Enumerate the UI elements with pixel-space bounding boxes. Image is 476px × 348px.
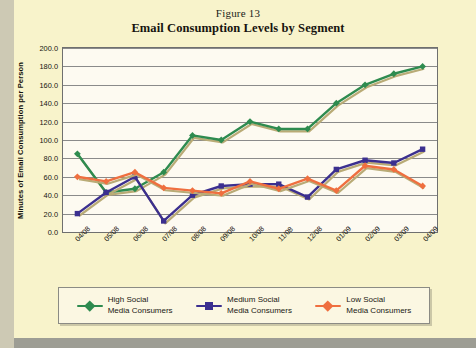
legend-label: Medium SocialMedia Consumers: [227, 295, 292, 316]
data-point-marker: [219, 183, 224, 188]
data-point-marker: [161, 218, 166, 223]
data-point-marker: [391, 160, 396, 165]
y-axis-tick-label: 60.0: [44, 172, 58, 181]
y-axis-tick-label: 140.0: [40, 99, 59, 108]
y-axis-tick-label: 100.0: [40, 136, 59, 145]
data-point-marker: [103, 190, 108, 195]
y-axis-tick-label: 160.0: [40, 80, 59, 89]
series-line-shadow: [79, 152, 424, 224]
data-point-marker: [75, 211, 80, 216]
legend-swatch-icon: [315, 301, 341, 311]
legend-label-line1: Medium Social: [227, 295, 292, 306]
y-axis-title-text: Minutes of Email Consumption per Person: [17, 61, 26, 218]
y-axis-tick-label: 0.0: [48, 228, 58, 237]
y-axis-tick-label: 20.0: [44, 209, 58, 218]
chart-title: Email Consumption Levels by Segment: [0, 21, 476, 36]
page-edge-bottom: [14, 338, 476, 348]
y-axis-tick-label: 200.0: [40, 44, 59, 53]
chart-series-canvas: [63, 48, 437, 232]
x-axis-ticks: 04/0805/0806/0807/0808/0809/0810/0811/08…: [62, 237, 438, 281]
legend-label-line1: Low Social: [346, 295, 411, 306]
data-point-marker: [334, 167, 339, 172]
chart-title-block: Figure 13 Email Consumption Levels by Se…: [0, 7, 476, 36]
data-point-marker: [420, 147, 425, 152]
page-background: Figure 13 Email Consumption Levels by Se…: [0, 0, 476, 348]
chart-area: Minutes of Email Consumption per Person …: [18, 47, 438, 242]
data-point-marker: [305, 194, 310, 199]
y-axis-tick-label: 40.0: [44, 191, 58, 200]
legend-swatch-icon: [196, 301, 222, 311]
legend-item-2[interactable]: Low SocialMedia Consumers: [315, 295, 411, 316]
legend-item-1[interactable]: Medium SocialMedia Consumers: [196, 295, 292, 316]
data-point-marker: [362, 158, 367, 163]
legend-item-0[interactable]: High SocialMedia Consumers: [77, 295, 173, 316]
figure-label: Figure 13: [0, 7, 476, 19]
y-axis-tick-label: 120.0: [40, 117, 59, 126]
legend-label-line1: High Social: [108, 295, 173, 306]
legend-label-line2: Media Consumers: [108, 306, 173, 317]
page-edge-left: [0, 0, 14, 348]
y-axis-tick-label: 180.0: [40, 62, 59, 71]
y-axis-ticks: 200.0180.0160.0140.0120.0100.080.060.040…: [30, 47, 60, 233]
chart-legend: High SocialMedia ConsumersMedium SocialM…: [58, 287, 430, 324]
legend-label-line2: Media Consumers: [346, 306, 411, 317]
plot-region: [62, 47, 438, 233]
legend-label: High SocialMedia Consumers: [108, 295, 173, 316]
legend-label-line2: Media Consumers: [227, 306, 292, 317]
legend-label: Low SocialMedia Consumers: [346, 295, 411, 316]
y-axis-title: Minutes of Email Consumption per Person: [14, 47, 28, 233]
y-axis-tick-label: 80.0: [44, 154, 58, 163]
legend-swatch-icon: [77, 301, 103, 311]
